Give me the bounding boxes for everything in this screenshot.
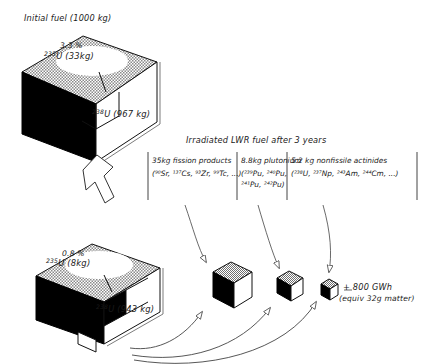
product-isotopes: (⁹⁰Sr, ¹³⁷Cs, ⁹³Zr, ⁹⁹Tc, ...)	[152, 169, 241, 180]
spent-fertile-text: U (943 kg)	[108, 304, 154, 314]
diagram-canvas: Initial fuel (1000 kg) 3.3 % 235U (33kg)…	[0, 0, 423, 364]
spent-fuel-to-products-arrows	[130, 302, 316, 363]
initial-fertile-mass-number: 238	[92, 108, 104, 115]
energy-mass-equivalent: (equiv 32g matter)	[339, 295, 415, 304]
process-arrow	[83, 155, 114, 203]
initial-fertile-text: U (967 kg)	[104, 109, 150, 119]
initial-enrichment-percent: 3.3 %	[60, 42, 83, 51]
plutonium-cube	[277, 271, 303, 301]
spent-fertile-mass-number: 238	[96, 303, 108, 310]
table-to-cube-arrows	[185, 205, 331, 272]
product-isotopes-line2: ²⁴¹Pu, ²⁴²Pu)	[241, 180, 302, 191]
initial-fissile-text: U (33kg)	[56, 51, 94, 61]
fission-products-cube	[213, 262, 252, 308]
spent-fissile-text: U (8kg)	[58, 258, 90, 268]
spent-fissile-label: 235U (8kg)	[46, 259, 90, 269]
actinides-cube	[321, 279, 338, 300]
product-heading: 35kg fission products	[152, 156, 241, 165]
initial-fuel-title: Initial fuel (1000 kg)	[24, 14, 111, 23]
spent-fertile-label: 238U (943 kg)	[96, 305, 154, 315]
initial-fissile-mass-number: 235	[44, 50, 56, 57]
product-isotopes: (²³⁸U, ²³⁷Np, ²⁴³Am, ²⁴⁴Cm, ...)	[291, 169, 398, 180]
initial-fissile-label: 235U (33kg)	[44, 52, 94, 62]
product-column-fission-products: 35kg fission products (⁹⁰Sr, ¹³⁷Cs, ⁹³Zr…	[152, 156, 241, 180]
energy-output-amount: + 800 GWh	[343, 283, 392, 292]
initial-fertile-label: 238U (967 kg)	[92, 110, 150, 120]
spent-fissile-mass-number: 235	[46, 257, 58, 264]
product-column-nonfissile-actinides: 5.2 kg nonfissile actinides (²³⁸U, ²³⁷Np…	[291, 156, 398, 180]
product-heading: 5.2 kg nonfissile actinides	[291, 156, 398, 165]
irradiated-fuel-title: Irradiated LWR fuel after 3 years	[186, 136, 326, 145]
